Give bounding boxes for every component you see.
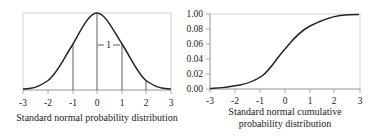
charts-canvas: 1 -3 -2 -1 0 1 2 3 Standard normal proba… (0, 0, 380, 136)
svg-text:0: 0 (95, 98, 100, 108)
svg-text:0.08: 0.08 (186, 24, 203, 34)
svg-text:-2: -2 (44, 98, 52, 108)
cdf-chart: 1.00 0.08 0.06 0.04 0.02 0.00 -3 -2 -1 0… (186, 9, 362, 129)
bracket-label: 1 (106, 40, 111, 50)
svg-text:0.02: 0.02 (186, 69, 203, 79)
pdf-caption: Standard normal probability distribution (16, 112, 177, 123)
svg-text:0: 0 (283, 96, 288, 106)
svg-text:0.06: 0.06 (186, 39, 203, 49)
cdf-caption-line1: Standard normal cumulative (228, 106, 342, 117)
cdf-x-tick-labels: -3 -2 -1 0 1 2 3 (206, 96, 363, 106)
svg-text:1: 1 (120, 98, 125, 108)
svg-text:2: 2 (144, 98, 149, 108)
svg-text:1: 1 (308, 96, 313, 106)
svg-text:-1: -1 (69, 98, 77, 108)
svg-text:0.04: 0.04 (186, 54, 203, 64)
svg-text:-2: -2 (231, 96, 239, 106)
pdf-x-tick-labels: -3 -2 -1 0 1 2 3 (19, 98, 174, 108)
svg-text:1.00: 1.00 (186, 9, 203, 19)
pdf-x-ticks (23, 90, 171, 94)
svg-text:3: 3 (169, 98, 174, 108)
svg-text:3: 3 (358, 96, 363, 106)
pdf-chart: 1 -3 -2 -1 0 1 2 3 Standard normal proba… (16, 13, 177, 123)
cdf-y-tick-labels: 1.00 0.08 0.06 0.04 0.02 0.00 (186, 9, 203, 94)
cdf-curve (210, 15, 359, 89)
cdf-y-ticks (206, 14, 210, 89)
cdf-plot-frame (210, 14, 360, 89)
svg-text:-3: -3 (19, 98, 27, 108)
cdf-caption-line2: probability distribution (239, 118, 332, 129)
svg-text:-1: -1 (256, 96, 264, 106)
svg-text:0.00: 0.00 (186, 84, 203, 94)
svg-text:-3: -3 (206, 96, 214, 106)
pdf-width-bracket: 1 (98, 40, 120, 50)
svg-text:2: 2 (332, 96, 337, 106)
cdf-x-ticks (210, 89, 360, 93)
